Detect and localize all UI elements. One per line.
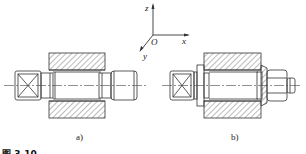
subfigure-a-label: a) [76, 132, 83, 142]
subfigure-b-label: b) [231, 132, 239, 142]
technical-drawing: z x y O a) [0, 0, 306, 154]
x-axis-label: x [181, 36, 186, 46]
z-axis-label: z [144, 3, 149, 13]
y-axis-label: y [142, 51, 147, 61]
origin-label: O [151, 37, 158, 47]
figure-caption: 图 3-10 [2, 149, 37, 154]
